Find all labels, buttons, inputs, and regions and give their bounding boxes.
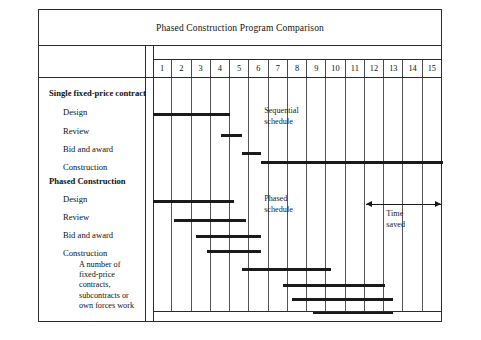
bar-phased-design — [153, 200, 234, 203]
time-saved-arrowhead-left — [366, 201, 372, 207]
axis-tick-14: 14 — [403, 60, 422, 77]
task-label-phased-0: Design — [63, 194, 87, 204]
bar-phased-bid-and-award — [196, 235, 262, 238]
task-label-phased-3: Construction — [63, 248, 107, 258]
gridline-col — [365, 78, 384, 311]
axis-tick-12: 12 — [365, 60, 384, 77]
axis-tick-5: 5 — [230, 60, 249, 77]
group-label-single-fixed-price: Single fixed-price contract — [49, 88, 146, 98]
header-upper-band — [153, 46, 441, 60]
axis-tick-8: 8 — [288, 60, 307, 77]
bar-phased-construction — [207, 250, 261, 253]
chart-title-cell: Phased Construction Program Comparison — [39, 10, 441, 46]
gridline-col — [230, 78, 249, 311]
bar-sequential-review — [221, 134, 242, 137]
subcontract-note: A number offixed-pricecontracts,subcontr… — [79, 260, 134, 311]
time-saved-arrow-line — [366, 204, 441, 205]
bar-sequential-design — [153, 113, 230, 116]
time-saved-arrowhead-right — [435, 201, 441, 207]
gridline-col — [403, 78, 422, 311]
task-label-sequential-0: Design — [63, 107, 87, 117]
task-label-phased-2: Bid and award — [63, 230, 113, 240]
header-blank-cell — [39, 46, 153, 78]
bar-sequential-construction — [261, 161, 443, 164]
group-label-phased-construction: Phased Construction — [49, 176, 126, 186]
axis-tick-13: 13 — [384, 60, 403, 77]
gantt-plot-area: SequentialschedulePhasedscheduleTimesave… — [153, 78, 441, 311]
bar-subcontract-3 — [292, 298, 393, 301]
task-label-sequential-3: Construction — [63, 162, 107, 172]
axis-tick-7: 7 — [269, 60, 288, 77]
bar-subcontract-1 — [242, 268, 331, 271]
plot-bottom-rule — [153, 311, 441, 312]
axis-tick-11: 11 — [346, 60, 365, 77]
bar-subcontract-2 — [283, 284, 385, 287]
axis-tick-15: 15 — [423, 60, 441, 77]
annotation-sequential-schedule: Sequentialschedule — [264, 106, 299, 127]
gridline-col — [384, 78, 403, 311]
gridline-col — [326, 78, 345, 311]
axis-tick-10: 10 — [326, 60, 345, 77]
axis-tick-2: 2 — [172, 60, 191, 77]
axis-tick-6: 6 — [249, 60, 268, 77]
axis-tick-4: 4 — [211, 60, 230, 77]
annotation-phased-schedule: Phasedschedule — [264, 194, 293, 215]
time-axis-header: 123456789101112131415 — [153, 60, 441, 78]
gridline-col — [346, 78, 365, 311]
axis-tick-1: 1 — [153, 60, 172, 77]
time-saved-label: Timesaved — [386, 209, 405, 230]
task-label-sequential-2: Bid and award — [63, 144, 113, 154]
axis-tick-9: 9 — [307, 60, 326, 77]
bar-phased-review — [174, 219, 246, 222]
chart-frame: Phased Construction Program Comparison 1… — [38, 9, 442, 322]
bar-sequential-bid-and-award — [242, 152, 261, 155]
task-label-phased-1: Review — [63, 212, 89, 222]
gridline-col — [423, 78, 441, 311]
gridline-col — [307, 78, 326, 311]
axis-tick-3: 3 — [192, 60, 211, 77]
task-label-sequential-1: Review — [63, 126, 89, 136]
page-title: Phased Construction Program Comparison — [156, 23, 324, 33]
